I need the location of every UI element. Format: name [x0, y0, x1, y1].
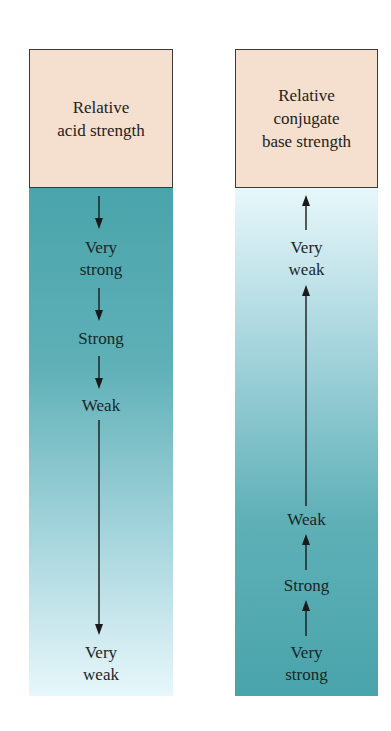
base-level-weak: Weak — [235, 509, 378, 531]
arrow-up-icon — [302, 600, 310, 636]
arrow-up-icon — [302, 285, 310, 506]
base-level-strong: Strong — [235, 575, 378, 597]
base-arrows — [0, 0, 391, 731]
level-text: Very — [235, 237, 378, 259]
arrow-up-icon — [302, 195, 310, 230]
level-text: Very — [235, 642, 378, 664]
arrow-up-icon — [302, 534, 310, 570]
base-level-very-weak: Very weak — [235, 237, 378, 281]
level-text: Strong — [235, 575, 378, 597]
level-text: strong — [235, 664, 378, 686]
level-text: weak — [235, 259, 378, 281]
base-level-very-strong: Very strong — [235, 642, 378, 686]
level-text: Weak — [235, 509, 378, 531]
